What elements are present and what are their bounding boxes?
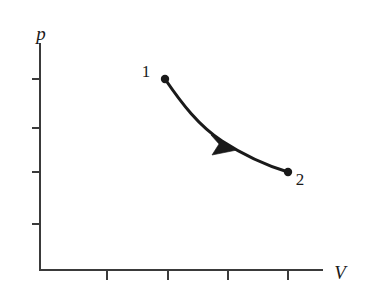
state-point-1-marker [161,75,169,83]
pv-diagram-canvas: 1 2 p V [0,0,367,301]
state-point-2-label: 2 [296,170,305,189]
state-point-2-marker [284,168,292,176]
figure-background [0,0,367,301]
state-point-1-label: 1 [142,62,151,81]
pv-diagram-figure: 1 2 p V [0,0,367,301]
y-axis-label: p [34,23,46,44]
